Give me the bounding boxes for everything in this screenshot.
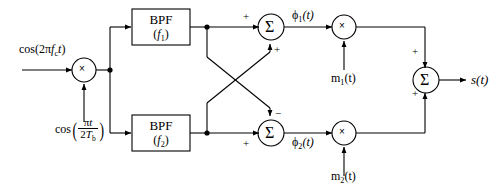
junction-dot-bpf2 <box>204 130 209 135</box>
m2-label: m2(t) <box>331 170 356 186</box>
sum-output-sign-top: + <box>412 46 418 57</box>
carrier-input-label: cos(2πfct) <box>19 43 65 59</box>
sum-top-symbol: Σ <box>265 19 274 35</box>
sum-output-symbol: Σ <box>420 72 429 88</box>
bpf1-label: BPF (f1) <box>132 13 190 44</box>
mult-bottom-symbol: × <box>339 127 345 137</box>
wire-cross-A-to-bottom <box>207 57 270 108</box>
diagram-wiring <box>0 0 499 187</box>
sum-bottom-sign-left: + <box>243 138 249 149</box>
sum-output-sign-bottom: + <box>412 88 418 99</box>
m1-label: m1(t) <box>331 72 356 88</box>
junction-dot-bpf1 <box>204 24 209 29</box>
wire-cross-B-to-top <box>207 52 270 103</box>
junction-dot-mixer-split <box>107 67 112 72</box>
sum-bottom-sign-top: − <box>275 108 281 119</box>
mult-top-symbol: × <box>339 21 345 31</box>
phi1-label: ϕ1(t) <box>292 9 314 25</box>
bpf2-label: BPF (f2) <box>132 119 190 150</box>
block-diagram: cos(2πfct) cos(πt2Tb) × BPF (f1) BPF (f2… <box>0 0 499 187</box>
sum-top-sign-left: + <box>243 11 249 22</box>
sum-bottom-symbol: Σ <box>265 125 274 141</box>
sum-top-sign-bottom: + <box>274 44 280 55</box>
output-label: s(t) <box>471 73 488 86</box>
clock-input-label: cos(πt2Tb) <box>55 117 105 143</box>
input-multiplier-symbol: × <box>79 64 85 74</box>
phi2-label: ϕ2(t) <box>292 136 314 152</box>
